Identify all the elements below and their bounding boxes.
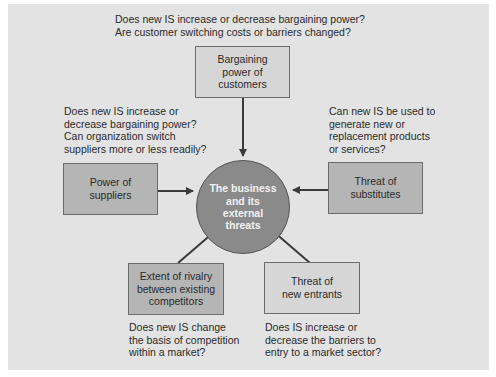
rivalry-box: Extent of rivalry between existing compe…: [128, 263, 224, 315]
suppliers-box: Power of suppliers: [63, 163, 158, 215]
customers-box: Bargaining power of customers: [195, 46, 290, 98]
entrants-box: Threat of new entrants: [264, 262, 360, 314]
substitutes-box: Threat of substitutes: [328, 162, 423, 214]
business-center-circle: The business and its external threats: [196, 160, 290, 254]
